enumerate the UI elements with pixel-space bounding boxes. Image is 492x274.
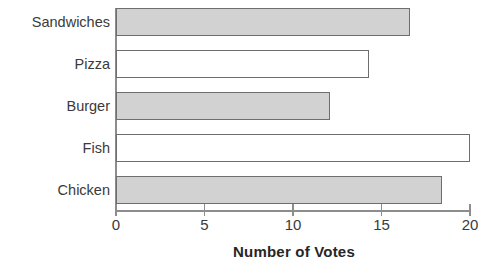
x-tick-mark-10 — [292, 204, 294, 216]
x-tick-label-20: 20 — [450, 216, 490, 233]
x-axis-title: Number of Votes — [116, 243, 472, 260]
x-tick-mark-15 — [381, 204, 383, 216]
bars-layer — [116, 8, 472, 211]
bar-burger[interactable] — [116, 92, 330, 120]
category-label-pizza: Pizza — [0, 50, 110, 78]
category-label-burger: Burger — [0, 92, 110, 120]
bar-chicken[interactable] — [116, 176, 442, 204]
category-label-chicken: Chicken — [0, 176, 110, 204]
bar-fish[interactable] — [116, 134, 470, 162]
category-axis-labels: Sandwiches Pizza Burger Fish Chicken — [0, 8, 110, 211]
x-tick-mark-5 — [204, 204, 206, 216]
category-label-sandwiches: Sandwiches — [0, 8, 110, 36]
x-tick-mark-0 — [115, 204, 117, 216]
x-tick-label-0: 0 — [96, 216, 136, 233]
bar-pizza[interactable] — [116, 50, 369, 78]
x-tick-label-10: 10 — [273, 216, 313, 233]
bar-sandwiches[interactable] — [116, 8, 410, 36]
category-label-fish: Fish — [0, 134, 110, 162]
x-tick-mark-20 — [469, 204, 471, 216]
x-tick-label-5: 5 — [185, 216, 225, 233]
x-tick-label-15: 15 — [362, 216, 402, 233]
bar-chart: Sandwiches Pizza Burger Fish Chicken 051… — [0, 0, 492, 274]
